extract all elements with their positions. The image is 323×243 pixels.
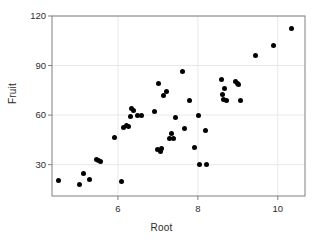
data-point [139, 113, 144, 118]
scatter-plot-figure: Fruit Root 3060901206810 [0, 0, 323, 243]
x-tick-label: 6 [103, 203, 133, 214]
data-point [169, 131, 174, 136]
data-point [159, 146, 164, 151]
data-point [173, 115, 178, 120]
data-point [289, 26, 294, 31]
plot-frame [52, 16, 305, 196]
data-point [187, 98, 192, 103]
data-point [224, 98, 229, 103]
data-point [87, 177, 92, 182]
data-point [164, 89, 169, 94]
data-point [77, 182, 82, 187]
data-point [182, 126, 187, 131]
data-point [253, 53, 258, 58]
data-point [131, 108, 136, 113]
y-tick-label: 120 [8, 10, 46, 21]
y-tick-label: 90 [8, 60, 46, 71]
data-point [271, 43, 276, 48]
data-point [128, 114, 133, 119]
x-tick-label: 8 [183, 203, 213, 214]
x-tick-label: 10 [263, 203, 293, 214]
data-point [197, 162, 202, 167]
gridlines [52, 16, 305, 196]
data-point [152, 109, 157, 114]
data-point [236, 82, 241, 87]
data-point [119, 179, 124, 184]
y-tick-label: 30 [8, 159, 46, 170]
y-tick-label: 60 [8, 109, 46, 120]
